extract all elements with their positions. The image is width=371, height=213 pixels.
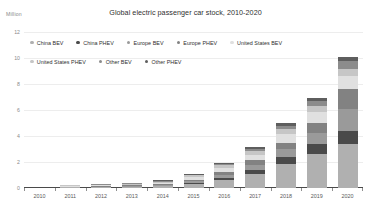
- bar-segment: [276, 134, 296, 143]
- bar-segment: [184, 184, 204, 188]
- x-axis-tickmark: [178, 188, 179, 191]
- bar-segment: [307, 144, 327, 154]
- x-axis-tickmark: [240, 188, 241, 191]
- bar-stack-2012[interactable]: [91, 184, 111, 188]
- bar-segment: [307, 133, 327, 145]
- bar-segment: [276, 149, 296, 157]
- chart-title: Global electric passenger car stock, 201…: [0, 8, 371, 17]
- x-axis-tickmark: [332, 188, 333, 191]
- bar-stack-2020[interactable]: [338, 57, 358, 188]
- bar-stack-2018[interactable]: [276, 123, 296, 188]
- x-axis-tick-label: 2011: [64, 193, 76, 199]
- bar-stack-2013[interactable]: [122, 183, 142, 189]
- x-axis-tickmark: [24, 188, 25, 191]
- bar-segment: [91, 187, 111, 188]
- x-axis-tickmark: [271, 188, 272, 191]
- x-axis-tickmark: [86, 188, 87, 191]
- x-axis-tick-label: 2019: [311, 193, 323, 199]
- bar-segment: [245, 174, 265, 188]
- x-axis-tick-label: 2015: [188, 193, 200, 199]
- x-axis-tickmark: [209, 188, 210, 191]
- x-axis-tick-label: 2018: [280, 193, 292, 199]
- bar-series-group: 2010201120122013201420152016201720182019…: [24, 32, 363, 188]
- bar-segment: [214, 180, 234, 188]
- y-axis-tick-label: 8: [17, 81, 20, 87]
- bar-segment: [307, 154, 327, 188]
- plot-area: 024681012 201020112012201320142015201620…: [24, 32, 363, 188]
- bar-stack-2019[interactable]: [307, 98, 327, 188]
- bar-segment: [307, 123, 327, 132]
- x-axis-tick-label: 2017: [249, 193, 261, 199]
- y-axis-tick-label: 2: [17, 159, 20, 165]
- bar-segment: [60, 187, 80, 188]
- bar-segment: [276, 164, 296, 188]
- bar-segment: [338, 89, 358, 109]
- y-axis-tick-label: 0: [17, 185, 20, 191]
- x-axis-tickmark: [362, 188, 363, 191]
- bar-segment: [338, 144, 358, 188]
- x-axis-tick-label: 2014: [157, 193, 169, 199]
- x-axis-tickmark: [147, 188, 148, 191]
- bar-stack-2014[interactable]: [153, 180, 173, 188]
- bar-segment: [338, 131, 358, 143]
- bar-stack-2017[interactable]: [245, 147, 265, 188]
- bar-stack-2015[interactable]: [184, 174, 204, 188]
- x-axis-tickmark: [55, 188, 56, 191]
- x-axis-tick-label: 2016: [218, 193, 230, 199]
- bar-segment: [338, 109, 358, 132]
- y-axis-tick-label: 10: [14, 55, 20, 61]
- bar-stack-2016[interactable]: [214, 163, 234, 188]
- gridline: [24, 188, 363, 189]
- bar-stack-2011[interactable]: [60, 185, 80, 188]
- bar-segment: [338, 69, 358, 76]
- y-axis-tick-label: 4: [17, 133, 20, 139]
- bar-segment: [122, 187, 142, 188]
- x-axis-tick-label: 2010: [33, 193, 45, 199]
- bar-segment: [338, 76, 358, 89]
- chart-container: Million Global electric passenger car st…: [0, 0, 371, 213]
- bar-segment: [276, 157, 296, 164]
- bar-segment: [338, 61, 358, 69]
- x-axis-tickmark: [116, 188, 117, 191]
- y-axis-tick-label: 6: [17, 107, 20, 113]
- bar-segment: [153, 186, 173, 188]
- bar-segment: [307, 112, 327, 123]
- y-axis-tick-label: 12: [14, 29, 20, 35]
- x-axis-tick-label: 2012: [95, 193, 107, 199]
- x-axis-tick-label: 2020: [342, 193, 354, 199]
- x-axis-tick-label: 2013: [126, 193, 138, 199]
- x-axis-tickmark: [301, 188, 302, 191]
